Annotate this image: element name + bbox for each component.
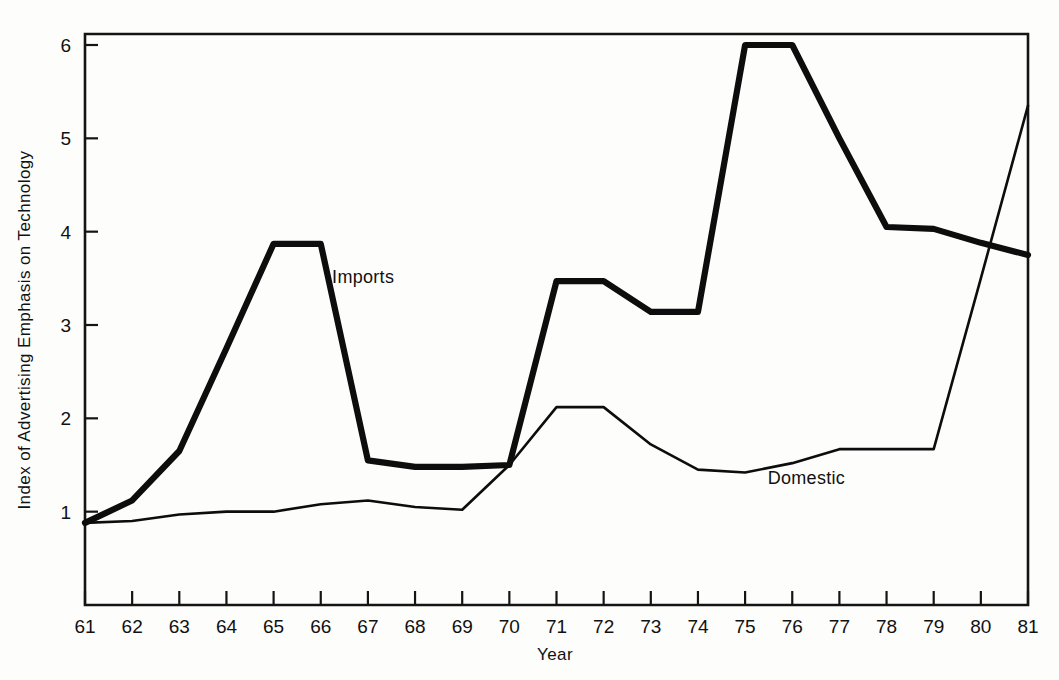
x-tick-label: 71 bbox=[546, 616, 567, 637]
series-annotation-imports: Imports bbox=[332, 267, 394, 287]
x-tick-label: 79 bbox=[923, 616, 944, 637]
x-tick-label: 68 bbox=[404, 616, 425, 637]
series-line-imports bbox=[85, 45, 1028, 523]
series-annotations: ImportsDomestic bbox=[332, 267, 845, 488]
x-tick-label: 65 bbox=[263, 616, 284, 637]
y-axis-tick-labels: 123456 bbox=[60, 35, 71, 523]
x-tick-label: 70 bbox=[499, 616, 520, 637]
y-axis-ticks bbox=[85, 45, 98, 512]
y-tick-label: 3 bbox=[60, 315, 71, 336]
x-tick-label: 74 bbox=[687, 616, 709, 637]
y-tick-label: 4 bbox=[60, 222, 71, 243]
x-tick-label: 78 bbox=[876, 616, 897, 637]
series-line-domestic bbox=[85, 106, 1028, 523]
x-axis-tick-labels: 6162636465666768697071727374757677787980… bbox=[74, 616, 1038, 637]
x-tick-label: 81 bbox=[1017, 616, 1038, 637]
line-chart: 123456 616263646566676869707172737475767… bbox=[0, 0, 1059, 680]
plot-frame bbox=[85, 34, 1028, 605]
x-tick-label: 63 bbox=[169, 616, 190, 637]
y-tick-label: 1 bbox=[60, 502, 71, 523]
y-tick-label: 2 bbox=[60, 408, 71, 429]
x-tick-label: 73 bbox=[640, 616, 661, 637]
y-tick-label: 5 bbox=[60, 128, 71, 149]
series-annotation-domestic: Domestic bbox=[768, 468, 845, 488]
x-axis-title: Year bbox=[537, 645, 573, 664]
x-tick-label: 62 bbox=[122, 616, 143, 637]
x-tick-label: 77 bbox=[829, 616, 850, 637]
x-tick-label: 69 bbox=[452, 616, 473, 637]
y-tick-label: 6 bbox=[60, 35, 71, 56]
x-tick-label: 61 bbox=[74, 616, 95, 637]
x-tick-label: 66 bbox=[310, 616, 331, 637]
x-tick-label: 80 bbox=[970, 616, 991, 637]
x-axis-ticks bbox=[85, 591, 1028, 605]
figure-container: 123456 616263646566676869707172737475767… bbox=[0, 0, 1059, 680]
x-tick-label: 67 bbox=[357, 616, 378, 637]
y-axis-title: Index of Advertising Emphasis on Technol… bbox=[15, 150, 34, 509]
x-tick-label: 76 bbox=[782, 616, 803, 637]
x-tick-label: 75 bbox=[735, 616, 756, 637]
x-tick-label: 64 bbox=[216, 616, 238, 637]
x-tick-label: 72 bbox=[593, 616, 614, 637]
